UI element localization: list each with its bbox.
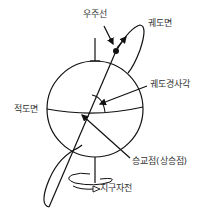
label-ascending-node: 승교점(상승점) bbox=[132, 157, 187, 166]
label-cosmic-ray: 우주선 bbox=[83, 10, 107, 19]
earth-sphere bbox=[47, 61, 143, 157]
label-earth-rotation: 지구자전 bbox=[100, 184, 132, 193]
label-equatorial-plane: 적도면 bbox=[14, 105, 38, 114]
inclination-pointer bbox=[100, 86, 147, 104]
equator-line bbox=[47, 107, 143, 113]
rotation-arrowhead bbox=[93, 186, 100, 192]
ascending-node-pointer bbox=[82, 115, 130, 158]
orbit-diagram: 우주선 궤도면 궤도경사각 적도면 승교점(상승점) 지구자전 bbox=[0, 0, 209, 211]
orbit-path bbox=[44, 25, 144, 207]
satellite-dot bbox=[113, 48, 119, 54]
label-orbital-inclination: 궤도경사각 bbox=[150, 80, 190, 89]
label-orbital-plane: 궤도면 bbox=[148, 19, 172, 28]
orbit-direction-arrow bbox=[117, 37, 126, 48]
cosmic-ray-arrow bbox=[104, 26, 113, 44]
